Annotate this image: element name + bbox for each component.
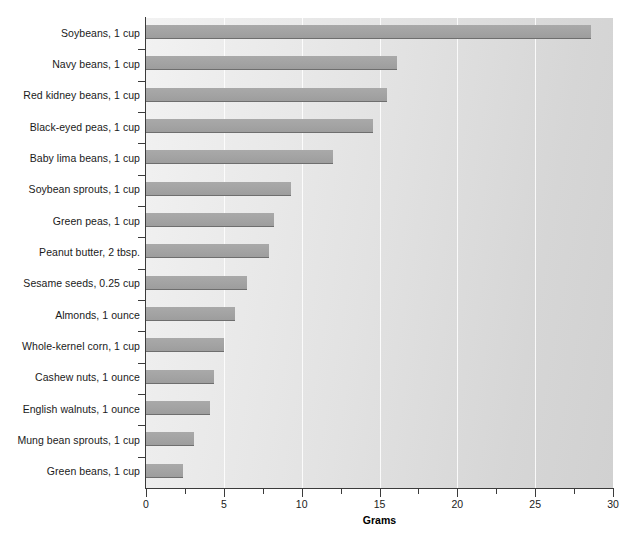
- bar: [146, 464, 183, 478]
- y-axis-tick: [138, 175, 145, 176]
- x-axis-tick: [418, 489, 419, 494]
- bar-row: [146, 300, 613, 331]
- x-axis-tick-label: 20: [451, 498, 463, 510]
- y-axis-tick: [138, 457, 145, 458]
- bar: [146, 244, 269, 258]
- x-axis-tick-label: 10: [296, 498, 308, 510]
- category-label: Whole-kernel corn, 1 cup: [0, 341, 140, 352]
- x-axis-tick-label: 15: [374, 498, 386, 510]
- y-axis-tick: [138, 49, 145, 50]
- bar: [146, 276, 247, 290]
- x-axis-tick: [574, 489, 575, 494]
- x-axis-tick-label: 30: [607, 498, 619, 510]
- x-axis-tick: [380, 489, 381, 497]
- x-axis-tick: [496, 489, 497, 494]
- bar: [146, 25, 591, 39]
- bar: [146, 401, 210, 415]
- bar: [146, 432, 194, 446]
- y-axis-tick: [138, 237, 145, 238]
- bar: [146, 307, 235, 321]
- bar-row: [146, 237, 613, 268]
- bar-row: [146, 49, 613, 80]
- bar: [146, 338, 224, 352]
- category-label: Mung bean sprouts, 1 cup: [0, 435, 140, 446]
- bar: [146, 88, 387, 102]
- x-axis-tick: [224, 489, 225, 497]
- protein-grams-bar-chart: Soybeans, 1 cupNavy beans, 1 cupRed kidn…: [0, 0, 628, 533]
- y-axis-tick: [138, 331, 145, 332]
- category-label: Soybean sprouts, 1 cup: [0, 184, 140, 195]
- y-axis-tick: [138, 363, 145, 364]
- category-label: Red kidney beans, 1 cup: [0, 90, 140, 101]
- category-label: Baby lima beans, 1 cup: [0, 153, 140, 164]
- bar-row: [146, 269, 613, 300]
- bar-row: [146, 81, 613, 112]
- bar: [146, 213, 274, 227]
- bar-row: [146, 18, 613, 49]
- y-axis-tick: [138, 143, 145, 144]
- category-label: English walnuts, 1 ounce: [0, 404, 140, 415]
- category-label: Green peas, 1 cup: [0, 216, 140, 227]
- y-axis-tick: [138, 81, 145, 82]
- bar-row: [146, 457, 613, 488]
- x-axis-tick: [535, 489, 536, 497]
- category-label: Green beans, 1 cup: [0, 466, 140, 477]
- bar: [146, 56, 397, 70]
- bar-row: [146, 206, 613, 237]
- category-label: Black-eyed peas, 1 cup: [0, 122, 140, 133]
- category-label: Cashew nuts, 1 ounce: [0, 372, 140, 383]
- y-axis-tick: [138, 394, 145, 395]
- x-axis-tick-label: 0: [143, 498, 149, 510]
- x-axis-tick: [341, 489, 342, 494]
- x-axis-tick: [457, 489, 458, 497]
- x-axis-title: Grams: [146, 514, 613, 526]
- x-axis-tick: [185, 489, 186, 494]
- category-label: Peanut butter, 2 tbsp.: [0, 247, 140, 258]
- y-axis-tick: [138, 206, 145, 207]
- y-axis-tick: [138, 300, 145, 301]
- y-axis-tick: [138, 269, 145, 270]
- bar-row: [146, 143, 613, 174]
- y-axis-tick: [138, 112, 145, 113]
- category-label: Navy beans, 1 cup: [0, 59, 140, 70]
- bar-row: [146, 363, 613, 394]
- category-label: Soybeans, 1 cup: [0, 28, 140, 39]
- bar-row: [146, 425, 613, 456]
- y-axis-line: [145, 17, 146, 489]
- bar: [146, 182, 291, 196]
- category-label: Almonds, 1 ounce: [0, 310, 140, 321]
- category-label: Sesame seeds, 0.25 cup: [0, 278, 140, 289]
- x-axis-tick-label: 25: [529, 498, 541, 510]
- x-axis-tick: [263, 489, 264, 494]
- bar-row: [146, 394, 613, 425]
- bar-row: [146, 175, 613, 206]
- x-axis-tick: [302, 489, 303, 497]
- bar: [146, 150, 333, 164]
- category-axis-labels: Soybeans, 1 cupNavy beans, 1 cupRed kidn…: [0, 18, 140, 488]
- bar-row: [146, 331, 613, 362]
- bar: [146, 370, 214, 384]
- bar: [146, 119, 373, 133]
- bar-row: [146, 112, 613, 143]
- x-axis-tick-label: 5: [221, 498, 227, 510]
- x-axis-tick: [146, 489, 147, 497]
- x-axis-tick: [613, 489, 614, 497]
- y-axis-tick: [138, 425, 145, 426]
- plot-area: [146, 18, 613, 488]
